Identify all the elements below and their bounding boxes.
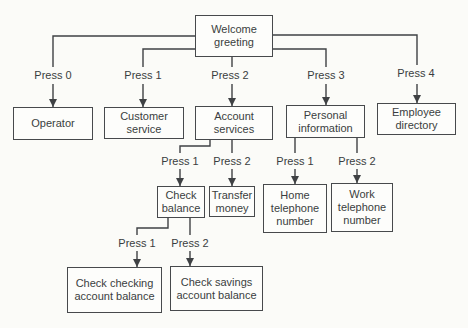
node-check-checking-account-balance: Check checking account balance (67, 267, 162, 313)
node-personal-information: Personal information (286, 105, 365, 138)
edge-label-root-press-3: Press 3 (304, 69, 348, 82)
edge-label-root-press-4: Press 4 (394, 67, 438, 80)
node-operator: Operator (13, 107, 93, 140)
edge-label-balance-press-2: Press 2 (168, 237, 212, 250)
edge-label-balance-press-1: Press 1 (115, 237, 159, 250)
edge-label-account-press-1: Press 1 (158, 155, 202, 168)
edge-label-root-press-1: Press 1 (121, 69, 165, 82)
edge-balance-press-1-riser (137, 218, 168, 235)
node-check-savings-account-balance: Check savings account balance (170, 266, 263, 311)
edge-label-account-press-2: Press 2 (210, 155, 254, 168)
edge-root-press-0-riser (53, 36, 195, 67)
node-account-services: Account services (195, 106, 273, 140)
edge-label-personal-press-2: Press 2 (335, 155, 379, 168)
node-transfer-money: Transfer money (209, 186, 255, 217)
node-welcome-greeting: Welcome greeting (195, 15, 273, 57)
phone-menu-tree-diagram: Welcome greeting Operator Customer servi… (0, 0, 468, 328)
node-customer-service: Customer service (104, 107, 184, 139)
edge-label-root-press-0: Press 0 (31, 69, 75, 82)
edge-root-press-1-riser (143, 49, 195, 67)
node-employee-directory: Employee directory (377, 103, 456, 135)
edge-account-press-1-riser (180, 140, 210, 153)
edge-root-press-4-riser (273, 35, 417, 65)
edge-label-personal-press-1: Press 1 (273, 155, 317, 168)
edge-root-press-3-riser (273, 49, 326, 67)
node-home-telephone-number: Home telephone number (263, 184, 327, 233)
node-check-balance: Check balance (157, 186, 205, 218)
node-work-telephone-number: Work telephone number (331, 183, 393, 232)
edge-label-root-press-2: Press 2 (208, 69, 252, 82)
